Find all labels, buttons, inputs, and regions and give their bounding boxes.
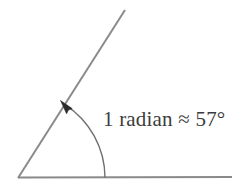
horizontal-ray [18,177,232,178]
diagram-canvas [0,0,245,186]
angle-diagram: 1 radian ≈ 57° [0,0,245,186]
angle-arc [65,105,105,178]
angle-measure-label: 1 radian ≈ 57° [103,106,225,132]
diagonal-ray [18,10,125,178]
